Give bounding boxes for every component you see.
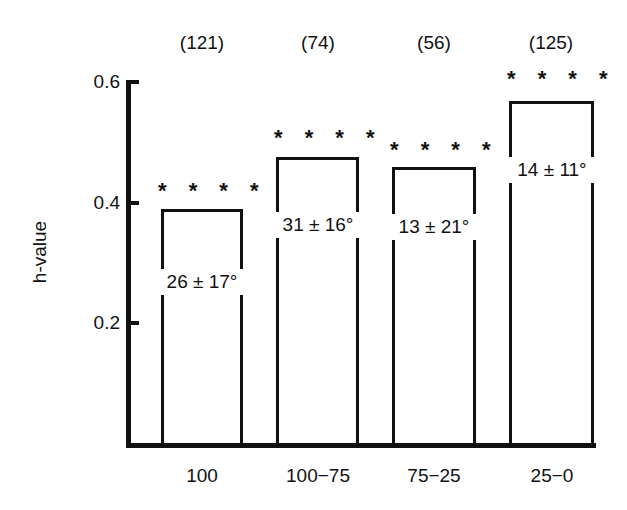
y-axis-label-wrap: h-value (0, 240, 80, 264)
x-tick-label: 100−75 (272, 465, 364, 487)
y-axis-label: h-value (28, 212, 52, 292)
bar-100 (161, 209, 243, 445)
y-tick-0.4 (130, 201, 139, 205)
bar-100-75 (276, 157, 359, 445)
bar-annotation: 13 ± 21° (388, 214, 480, 240)
bar-annotation: 26 ± 17° (158, 269, 246, 295)
significance-stars: * * * * (390, 137, 480, 163)
sample-size-label: (125) (511, 32, 591, 54)
sample-size-label: (56) (394, 32, 474, 54)
y-tick-label-0.2: 0.2 (70, 312, 120, 334)
x-tick-label: 100 (162, 465, 242, 487)
x-tick-label: 75−25 (388, 465, 480, 487)
bar-annotation: 14 ± 11° (505, 157, 599, 183)
sample-size-label: (121) (162, 32, 242, 54)
significance-stars: * * * * (158, 178, 248, 204)
y-axis-line (126, 80, 131, 447)
sample-size-label: (74) (278, 32, 358, 54)
y-tick-label-0.4: 0.4 (70, 192, 120, 214)
y-tick-label-0.6: 0.6 (70, 71, 120, 93)
significance-stars: * * * * (274, 125, 364, 151)
y-tick-0.6 (130, 80, 139, 84)
significance-stars: * * * * (507, 66, 597, 92)
bar-75-25 (392, 167, 476, 445)
y-tick-0.2 (130, 321, 139, 325)
bar-annotation: 31 ± 16° (272, 212, 364, 238)
bar-25-0 (509, 101, 594, 445)
x-tick-label: 25−0 (506, 465, 598, 487)
